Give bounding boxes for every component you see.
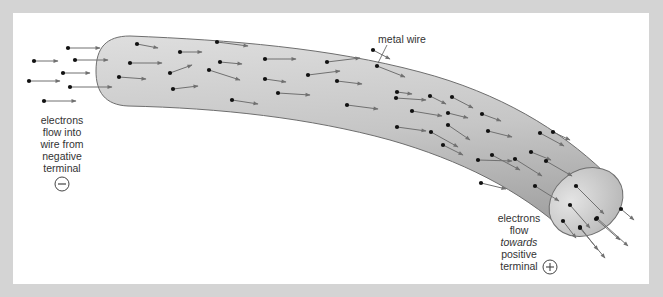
electron-dot-icon — [66, 46, 70, 50]
electron-dot-icon — [135, 42, 139, 46]
electron-dot-icon — [178, 50, 182, 54]
metal-wire-label: metal wire — [372, 33, 432, 45]
wire-diagram — [0, 0, 663, 297]
electron-outside-left — [42, 99, 76, 103]
electron-outside-left — [66, 46, 100, 50]
electron-dot-icon — [32, 59, 36, 63]
negative-terminal-icon — [55, 177, 69, 191]
pos-line-2: flow — [496, 224, 542, 236]
electron-dot-icon — [263, 57, 267, 61]
electron-dot-icon — [561, 219, 565, 223]
electron-outside-left — [61, 71, 90, 75]
pos-line-1: electrons — [496, 212, 542, 224]
electron-dot-icon — [513, 157, 517, 161]
electron-dot-icon — [375, 64, 379, 68]
electron-dot-icon — [410, 109, 414, 113]
electron-dot-icon — [619, 207, 623, 211]
electron-dot-icon — [168, 71, 172, 75]
positive-end-label: electrons flow towards positive terminal — [496, 212, 542, 272]
electron-dot-icon — [117, 75, 121, 79]
electron-dot-icon — [574, 184, 578, 188]
electron-dot-icon — [578, 226, 582, 230]
electron-outside-left — [32, 59, 58, 63]
electron-dot-icon — [218, 60, 222, 64]
neg-line-2: flow into — [32, 126, 92, 138]
electron-dot-icon — [171, 87, 175, 91]
neg-line-3: wire from — [32, 138, 92, 150]
electron-dot-icon — [446, 123, 450, 127]
drift-arrow-icon — [373, 50, 390, 59]
drift-arrow-icon — [621, 209, 634, 220]
electron-dot-icon — [27, 79, 31, 83]
electron-dot-icon — [476, 158, 480, 162]
electron-dot-icon — [215, 40, 219, 44]
metal-wire — [96, 36, 604, 232]
metal-wire-leader-line — [378, 45, 387, 63]
electron-dot-icon — [544, 159, 548, 163]
electron-dot-icon — [538, 131, 542, 135]
electron-dot-icon — [335, 79, 339, 83]
electron-dot-icon — [395, 125, 399, 129]
electron-dot-icon — [306, 73, 310, 77]
electron-dot-icon — [345, 103, 349, 107]
neg-line-1: electrons — [32, 114, 92, 126]
electron-outside-left — [27, 79, 60, 83]
electron-dot-icon — [480, 112, 484, 116]
electron-dot-icon — [529, 150, 533, 154]
electron-dot-icon — [568, 203, 572, 207]
electron-dot-icon — [446, 111, 450, 115]
pos-line-4: positive — [496, 248, 542, 260]
electron-outside-right — [619, 207, 634, 220]
drift-arrow-icon — [597, 218, 628, 246]
electron-dot-icon — [61, 71, 65, 75]
electron-dot-icon — [395, 90, 399, 94]
electron-dot-icon — [450, 95, 454, 99]
electron-dot-icon — [263, 77, 267, 81]
electron-dot-icon — [479, 181, 483, 185]
electron-dot-icon — [230, 98, 234, 102]
electron-dot-icon — [42, 99, 46, 103]
positive-terminal-icon — [543, 260, 557, 274]
electron-dot-icon — [128, 61, 132, 65]
electron-dot-icon — [486, 129, 490, 133]
electron-dot-icon — [276, 91, 280, 95]
pos-line-3: towards — [496, 236, 542, 248]
electron-dot-icon — [394, 96, 398, 100]
electron-dot-icon — [207, 68, 211, 72]
electron-dot-icon — [68, 85, 72, 89]
electron-dot-icon — [533, 184, 537, 188]
electron-dot-icon — [490, 153, 494, 157]
electron-dot-icon — [441, 143, 445, 147]
electron-dot-icon — [429, 130, 433, 134]
electron-dot-icon — [371, 48, 375, 52]
electron-dot-icon — [325, 60, 329, 64]
neg-line-4: negative — [32, 150, 92, 162]
electron-dot-icon — [428, 94, 432, 98]
metal-wire-text: metal wire — [372, 33, 432, 45]
neg-line-5: terminal — [32, 162, 92, 174]
electron-dot-icon — [551, 130, 555, 134]
pos-line-5: terminal — [496, 260, 542, 272]
electron-dot-icon — [595, 216, 599, 220]
negative-end-label: electrons flow into wire from negative t… — [32, 114, 92, 174]
electron-dot-icon — [73, 58, 77, 62]
